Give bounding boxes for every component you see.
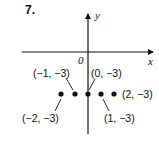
label-neg2-neg3: (−2, −3) — [22, 112, 59, 124]
label-neg1-neg3: (−1, −3) — [33, 67, 70, 79]
label-1-neg3: (1, −3) — [104, 112, 135, 124]
leader-neg1 — [66, 78, 73, 90]
point-neg2-neg3 — [58, 91, 63, 96]
label-2-neg3: (2, −3) — [122, 88, 153, 100]
leader-0 — [89, 79, 95, 90]
point-0-neg3 — [85, 91, 90, 96]
label-0-neg3: (0, −3) — [91, 67, 122, 79]
coordinate-plane: 7. y x 0 (−1, −3) (0, −3) (2, −3) (−2, −… — [0, 0, 159, 147]
point-1-neg3 — [98, 91, 103, 96]
point-neg1-neg3 — [72, 91, 77, 96]
leader-neg2 — [55, 99, 61, 111]
problem-number: 7. — [25, 3, 35, 17]
origin-label: 0 — [78, 54, 84, 66]
leader-1 — [103, 99, 109, 111]
x-axis-label: x — [147, 55, 153, 67]
point-2-neg3 — [111, 91, 116, 96]
y-axis-label: y — [94, 9, 100, 21]
